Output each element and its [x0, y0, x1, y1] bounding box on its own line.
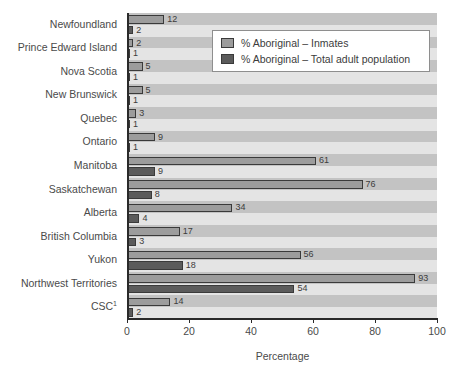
x-axis-tick-mark: [127, 319, 128, 323]
background-band: [127, 190, 437, 202]
background-band: [127, 131, 437, 143]
y-axis-label-new-brunswick: New Brunswick: [0, 89, 122, 100]
x-axis-line: [127, 318, 438, 320]
bar-inmates: [127, 15, 164, 24]
bar-value-label: 9: [158, 167, 163, 176]
bar-total-adult-population: [127, 167, 155, 176]
y-axis-line: [127, 13, 129, 319]
bar-inmates: [127, 180, 363, 189]
bar-value-label: 2: [136, 308, 141, 317]
bar-value-label: 5: [146, 62, 151, 71]
bar-value-label: 93: [418, 274, 428, 283]
bar-total-adult-population: [127, 191, 152, 200]
background-band: [127, 237, 437, 249]
y-axis-label-northwest-territories: Northwest Territories: [0, 278, 122, 289]
y-axis-label-quebec: Quebec: [0, 113, 122, 124]
legend-label-inmates: % Aboriginal – Inmates: [241, 37, 348, 49]
bar-inmates: [127, 274, 415, 283]
bar-inmates: [127, 227, 180, 236]
bar-value-label: 12: [167, 15, 177, 24]
x-axis-tick-mark: [189, 319, 190, 323]
x-axis-tick-mark: [251, 319, 252, 323]
bar-total-adult-population: [127, 261, 183, 270]
bar-value-label: 1: [133, 73, 138, 82]
bar-total-adult-population: [127, 214, 139, 223]
x-axis-tick-mark: [313, 319, 314, 323]
bar-inmates: [127, 62, 143, 71]
bar-value-label: 2: [136, 26, 141, 35]
bar-value-label: 76: [366, 180, 376, 189]
bar-inmates: [127, 251, 301, 260]
bar-chart: 122215151319161976834417356189354142 New…: [0, 0, 459, 384]
bar-value-label: 3: [139, 109, 144, 118]
x-axis-tick-label: 20: [183, 325, 195, 337]
x-axis-tick-label: 60: [307, 325, 319, 337]
bar-value-label: 61: [319, 156, 329, 165]
bar-value-label: 4: [142, 214, 147, 223]
x-axis-tick-mark: [437, 319, 438, 323]
legend-swatch-inmates: [221, 38, 234, 48]
bar-value-label: 14: [173, 297, 183, 306]
bar-value-label: 17: [183, 227, 193, 236]
background-band: [127, 166, 437, 178]
bar-value-label: 1: [133, 49, 138, 58]
bar-value-label: 2: [136, 39, 141, 48]
background-band: [127, 107, 437, 119]
bar-inmates: [127, 157, 316, 166]
bar-inmates: [127, 133, 155, 142]
bar-value-label: 3: [139, 237, 144, 246]
background-band: [127, 119, 437, 131]
bar-total-adult-population: [127, 285, 294, 294]
bar-value-label: 1: [133, 143, 138, 152]
x-axis-tick-label: 100: [428, 325, 446, 337]
bar-inmates: [127, 298, 170, 307]
background-band: [127, 84, 437, 96]
bar-value-label: 8: [155, 190, 160, 199]
bar-value-label: 18: [186, 261, 196, 270]
bar-value-label: 56: [304, 250, 314, 259]
legend-label-total-adult-population: % Aboriginal – Total adult population: [241, 53, 410, 65]
y-axis-label-newfoundland: Newfoundland: [0, 19, 122, 30]
bar-inmates: [127, 204, 232, 213]
y-axis-label-yukon: Yukon: [0, 254, 122, 265]
x-axis-tick-label: 0: [124, 325, 130, 337]
x-axis-tick-label: 80: [369, 325, 381, 337]
legend-swatch-total-adult-population: [221, 54, 234, 64]
bar-value-label: 9: [158, 133, 163, 142]
y-axis-label-manitoba: Manitoba: [0, 160, 122, 171]
legend-item-inmates: % Aboriginal – Inmates: [221, 36, 348, 50]
x-axis-tick-mark: [375, 319, 376, 323]
y-axis-category-labels: NewfoundlandPrince Edward IslandNova Sco…: [0, 13, 122, 319]
y-axis-label-alberta: Alberta: [0, 207, 122, 218]
chart-legend: % Aboriginal – Inmates % Aboriginal – To…: [212, 30, 430, 72]
y-axis-label-saskatchewan: Saskatchewan: [0, 184, 122, 195]
legend-item-total-adult-population: % Aboriginal – Total adult population: [221, 52, 410, 66]
background-band: [127, 213, 437, 225]
x-axis-tick-label: 40: [245, 325, 257, 337]
y-axis-label-prince-edward-island: Prince Edward Island: [0, 42, 122, 53]
bar-value-label: 1: [133, 96, 138, 105]
y-axis-label-csc: CSC1: [0, 301, 122, 312]
y-axis-label-ontario: Ontario: [0, 136, 122, 147]
background-band: [127, 72, 437, 84]
bar-inmates: [127, 86, 143, 95]
y-axis-label-nova-scotia: Nova Scotia: [0, 66, 122, 77]
bar-value-label: 5: [146, 86, 151, 95]
bar-value-label: 1: [133, 120, 138, 129]
bar-value-label: 34: [235, 203, 245, 212]
x-axis-title: Percentage: [127, 350, 438, 362]
y-axis-label-british-columbia: British Columbia: [0, 231, 122, 242]
background-band: [127, 95, 437, 107]
bar-value-label: 54: [297, 284, 307, 293]
background-band: [127, 142, 437, 154]
